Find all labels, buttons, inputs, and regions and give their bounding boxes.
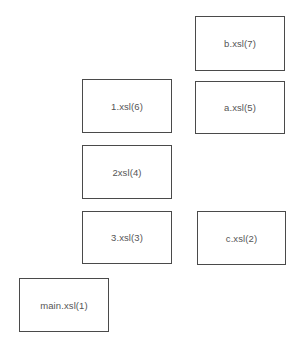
- box-1-xsl: 1.xsl(6): [82, 79, 172, 133]
- box-label: a.xsl(5): [224, 102, 256, 113]
- box-a-xsl: a.xsl(5): [195, 81, 285, 134]
- box-label: main.xsl(1): [40, 300, 88, 311]
- box-2-xsl: 2xsl(4): [82, 145, 172, 199]
- box-label: 2xsl(4): [112, 167, 141, 178]
- box-label: 3.xsl(3): [111, 232, 143, 243]
- box-label: b.xsl(7): [224, 38, 256, 49]
- box-label: 1.xsl(6): [111, 101, 143, 112]
- box-label: c.xsl(2): [226, 233, 257, 244]
- box-3-xsl: 3.xsl(3): [82, 211, 172, 264]
- box-b-xsl: b.xsl(7): [195, 16, 285, 71]
- box-main-xsl: main.xsl(1): [19, 278, 109, 332]
- box-c-xsl: c.xsl(2): [197, 211, 286, 265]
